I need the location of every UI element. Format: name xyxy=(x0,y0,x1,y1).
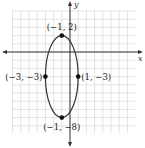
point-label: (−1, −8) xyxy=(43,122,80,132)
y-axis-label: y xyxy=(73,0,79,9)
data-point xyxy=(76,74,81,79)
point-label: (−3, −3) xyxy=(5,72,42,82)
data-point xyxy=(60,115,65,120)
data-point xyxy=(43,74,48,79)
point-label: (−1, 2) xyxy=(47,22,77,32)
data-point xyxy=(60,33,65,38)
x-axis-label: x xyxy=(138,54,143,63)
point-label: (1, −3) xyxy=(81,72,111,82)
y-axis-up-arrow-icon xyxy=(68,1,72,6)
ellipse-graph: y x (−1, 2)(−3, −3)(1, −3)(−1, −8) xyxy=(0,0,145,148)
x-axis-left-arrow-icon xyxy=(2,50,7,54)
y-axis-down-arrow-icon xyxy=(68,142,72,147)
